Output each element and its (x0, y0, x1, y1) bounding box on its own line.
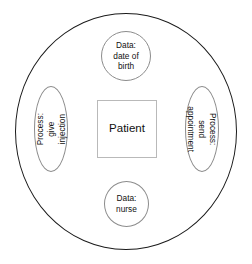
data-node-date-of-birth-label: Data: date of birth (113, 40, 138, 72)
process-node-give-injection-label: Process: give injection (35, 113, 67, 145)
data-node-date-of-birth[interactable]: Data: date of birth (101, 31, 151, 81)
entity-box-patient[interactable]: Patient (97, 100, 157, 158)
entity-box-patient-label: Patient (109, 122, 145, 135)
process-node-send-appointment-label: Process: send appointment (186, 106, 218, 152)
process-node-give-injection[interactable]: Process: give injection (34, 86, 68, 172)
process-node-send-appointment[interactable]: Process: send appointment (185, 86, 219, 172)
diagram-canvas: Data: date of birth Process: send appoin… (0, 0, 252, 264)
data-node-nurse-label: Data: nurse (116, 193, 137, 214)
data-node-nurse[interactable]: Data: nurse (104, 181, 149, 227)
